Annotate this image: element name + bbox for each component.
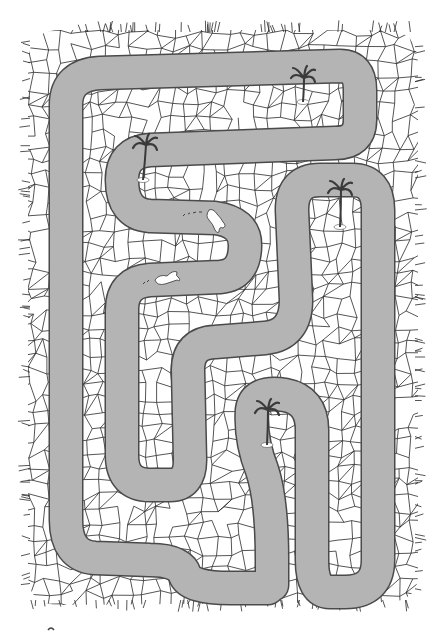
river-maze-canvas[interactable] xyxy=(0,0,443,635)
river-channels xyxy=(66,66,378,592)
corner-mark xyxy=(48,628,54,630)
